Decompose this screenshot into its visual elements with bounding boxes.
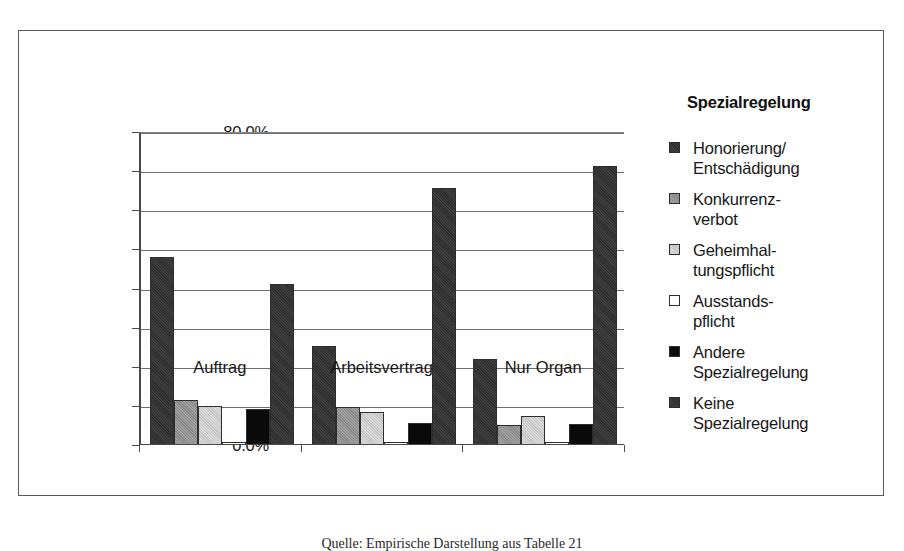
bar[interactable] <box>150 257 174 445</box>
y-axis-tick-mark <box>132 249 139 250</box>
legend-item-label: Andere Spezialregelung <box>693 342 808 382</box>
legend-items: Honorierung/ EntschädigungKonkurrenz- ve… <box>669 138 889 433</box>
y-axis-tick-mark <box>132 210 139 211</box>
chart-frame: 0.0%10.0%20.0%30.0%40.0%50.0%60.0%70.0%8… <box>18 30 884 496</box>
legend-item[interactable]: Honorierung/ Entschädigung <box>669 138 889 178</box>
bar[interactable] <box>246 409 270 445</box>
bar[interactable] <box>432 188 456 445</box>
x-axis-tick-mark <box>139 445 140 452</box>
y-axis-tick-mark <box>132 171 139 172</box>
y-axis-tick-mark <box>132 406 139 407</box>
x-axis-category-label: Auftrag <box>139 358 301 377</box>
legend-item[interactable]: Keine Spezialregelung <box>669 393 889 433</box>
x-axis-category-label: Arbeitsvertrag <box>301 358 463 377</box>
y-axis-tick-mark <box>132 289 139 290</box>
x-axis-tick-mark <box>301 445 302 452</box>
legend-item[interactable]: Konkurrenz- verbot <box>669 189 889 229</box>
y-axis-tick-mark <box>132 328 139 329</box>
legend-item-label: Ausstands- pflicht <box>693 291 774 331</box>
legend-item[interactable]: Ausstands- pflicht <box>669 291 889 331</box>
legend-swatch-icon <box>669 142 680 153</box>
plot-area-wrapper <box>139 132 624 445</box>
legend-item-label: Konkurrenz- verbot <box>693 189 781 229</box>
plot-area <box>139 132 624 445</box>
bar[interactable] <box>408 423 432 445</box>
x-axis-tick-mark <box>462 445 463 452</box>
bar-group <box>150 133 294 445</box>
bar[interactable] <box>593 166 617 445</box>
bar[interactable] <box>497 425 521 445</box>
bar[interactable] <box>521 416 545 445</box>
legend: Spezialregelung Honorierung/ Entschädigu… <box>669 93 889 444</box>
x-axis-baseline <box>141 444 624 445</box>
bar-group <box>312 133 456 445</box>
legend-swatch-icon <box>669 295 680 306</box>
legend-item[interactable]: Andere Spezialregelung <box>669 342 889 382</box>
bar[interactable] <box>174 400 198 445</box>
legend-swatch-icon <box>669 346 680 357</box>
bar[interactable] <box>360 412 384 445</box>
legend-item-label: Honorierung/ Entschädigung <box>693 138 800 178</box>
y-axis-tick-mark <box>132 445 139 446</box>
x-axis-category-label: Nur Organ <box>462 358 624 377</box>
legend-swatch-icon <box>669 193 680 204</box>
x-axis-tick-mark <box>624 445 625 452</box>
figure: 0.0%10.0%20.0%30.0%40.0%50.0%60.0%70.0%8… <box>0 0 904 551</box>
legend-title: Spezialregelung <box>687 93 889 112</box>
bar-group <box>473 133 617 445</box>
legend-item-label: Keine Spezialregelung <box>693 393 808 433</box>
legend-swatch-icon <box>669 244 680 255</box>
y-axis-tick-mark <box>132 132 139 133</box>
figure-caption: Quelle: Empirische Darstellung aus Tabel… <box>0 536 904 551</box>
legend-item-label: Geheimhal- tungspflicht <box>693 240 776 280</box>
y-axis-tick-mark <box>132 367 139 368</box>
legend-swatch-icon <box>669 397 680 408</box>
legend-item[interactable]: Geheimhal- tungspflicht <box>669 240 889 280</box>
bar[interactable] <box>198 406 222 445</box>
bar[interactable] <box>336 407 360 445</box>
bar[interactable] <box>569 424 593 445</box>
